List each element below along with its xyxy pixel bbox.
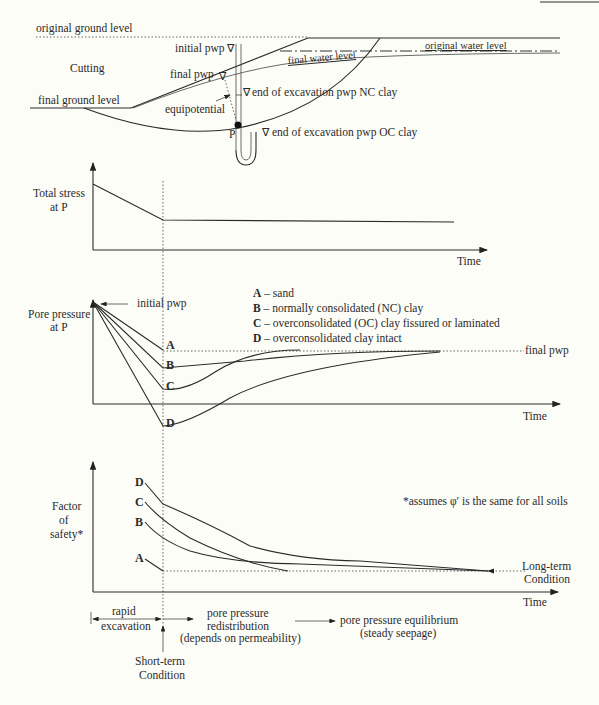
equilibrium-label: pore pressure equilibrium [340, 614, 458, 627]
y-axis-label: Factor [52, 500, 82, 512]
legend: A – sand B – normally consolidated (NC) … [253, 287, 500, 345]
curve-label-b: B [135, 515, 143, 529]
legend-item: A – sand [253, 287, 294, 299]
eoe-nc-label: end of excavation pwp NC clay [252, 86, 398, 99]
final-water-level-label: final water level [287, 49, 356, 66]
y-axis-label: at P [50, 321, 68, 333]
redistribution-label: redistribution [207, 620, 269, 632]
total-stress-curve [93, 184, 454, 222]
phase-timeline: rapid excavation pore pressure redistrib… [91, 605, 458, 681]
short-term-label: Short-term [135, 655, 185, 667]
curve-label-d: D [135, 475, 144, 489]
long-term-label: Condition [524, 573, 570, 585]
redistribution-label: (depends on permeability) [180, 632, 301, 645]
point-p-label: P [229, 128, 235, 140]
water-table-icon: ∇ [226, 43, 235, 54]
curve-label-c: C [135, 495, 144, 509]
curve-a [145, 559, 163, 571]
x-axis-label: Time [523, 596, 547, 608]
equipotential-line [225, 80, 236, 120]
curve-a [93, 302, 163, 350]
curve-label-d: D [166, 416, 175, 430]
y-axis-label: Total stress [33, 187, 85, 199]
original-water-level-label: original water level [425, 40, 507, 51]
curve-c [93, 302, 300, 389]
legend-item: B – normally consolidated (NC) clay [253, 302, 423, 315]
equipotential-label: equipotential [165, 103, 225, 116]
y-axis-label: Pore pressure [28, 308, 90, 321]
curve-c [145, 502, 288, 571]
water-table-icon: ∇ [218, 71, 227, 82]
curve-label-a: A [166, 338, 175, 352]
redistribution-label: pore pressure [207, 607, 269, 620]
rapid-label: excavation [101, 620, 151, 632]
x-axis-label: Time [457, 255, 481, 267]
water-table-icon: ∇ [261, 127, 270, 138]
final-ground-level-label: final ground level [38, 94, 120, 107]
eoe-oc-label: end of excavation pwp OC clay [272, 126, 418, 139]
initial-pwp-label: initial pwp [175, 42, 225, 55]
y-axis-label: safety* [50, 528, 83, 541]
curve-b [145, 522, 488, 571]
point-p-marker [235, 122, 242, 129]
final-water-level-line [133, 53, 560, 108]
factor-of-safety-plot: Factor of safety* Time *assumes φ′ is th… [50, 462, 571, 608]
cross-section: original ground level final ground level… [30, 2, 599, 165]
cutting-label: Cutting [70, 62, 105, 75]
water-table-icon: ∇ [242, 87, 251, 98]
legend-item: D – overconsolidated clay intact [253, 332, 403, 345]
initial-pwp-label: initial pwp [137, 297, 187, 310]
curve-label-c: C [166, 379, 175, 393]
y-axis-label: of [59, 514, 69, 526]
equipotential-arrow [216, 95, 230, 101]
rapid-label: rapid [112, 605, 136, 618]
short-term-label: Condition [139, 669, 185, 681]
footnote: *assumes φ′ is the same for all soils [403, 495, 568, 508]
final-pwp-label: final pwp [170, 68, 214, 81]
x-axis-label: Time [523, 410, 547, 422]
equilibrium-label: (steady seepage) [360, 627, 436, 640]
original-ground-level-label: original ground level [36, 22, 132, 35]
legend-item: C – overconsolidated (OC) clay fissured … [253, 317, 500, 330]
total-stress-plot: Total stress at P Time [33, 163, 487, 267]
y-axis-label: at P [50, 201, 68, 213]
final-pwp-label: final pwp [525, 344, 569, 357]
curve-label-a: A [135, 551, 144, 565]
excavation-pore-pressure-diagram: original ground level final ground level… [0, 0, 599, 705]
curve-label-b: B [166, 358, 174, 372]
pore-pressure-plot: Pore pressure at P Time initial pwp fina… [28, 287, 569, 430]
long-term-label: Long-term [522, 560, 571, 573]
